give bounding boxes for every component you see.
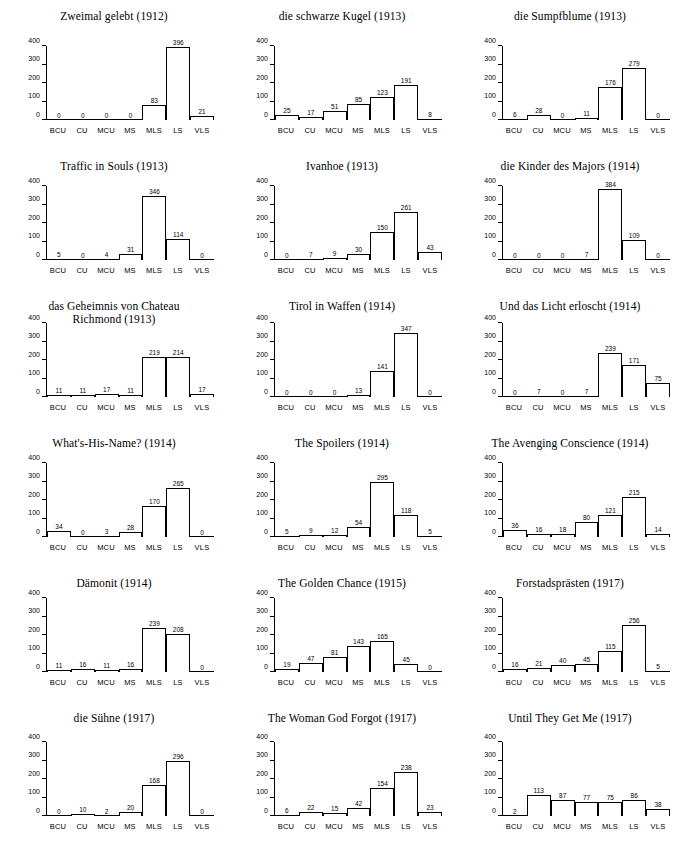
bar-value-label: 16	[71, 661, 95, 668]
y-axis-tick	[498, 741, 502, 742]
bar-cell: 0	[551, 323, 575, 397]
y-axis-tick	[498, 671, 502, 672]
bar-value-label: 0	[418, 664, 442, 671]
bar	[119, 532, 143, 537]
bar-cell: 16	[527, 463, 551, 537]
x-axis-labels: BCUCUMCUMSMLSLSVLS	[46, 818, 214, 838]
y-axis-tick	[498, 653, 502, 654]
panel-title: The Woman God Forgot (1917)	[228, 702, 456, 725]
bar-cell: 14	[646, 463, 670, 537]
chart-panel: The Avenging Conscience (1914)0100200300…	[456, 427, 684, 567]
bar-cell: 0	[503, 323, 527, 397]
bar-value-label: 51	[323, 103, 347, 110]
bar-value-label: 25	[275, 107, 299, 114]
x-axis-tick-label: BCU	[502, 822, 526, 831]
x-axis-labels: BCUCUMCUMSMLSLSVLS	[502, 674, 670, 694]
panel-title: Dämonit (1914)	[0, 567, 228, 590]
y-axis-tick-label: 0	[36, 387, 40, 394]
bar-value-label: 30	[347, 246, 371, 253]
y-axis-tick-label: 400	[256, 36, 268, 43]
bar-value-label: 11	[119, 387, 143, 394]
y-axis-tick-label: 300	[256, 607, 268, 614]
x-axis-tick-label: VLS	[190, 266, 214, 275]
bar-cell: 15	[323, 742, 347, 816]
plot-canvas: 010020030040021138777758638	[502, 742, 670, 816]
y-axis-tick-label: 200	[28, 350, 40, 357]
bar-cell: 21	[190, 46, 214, 120]
y-axis-tick	[498, 259, 502, 260]
x-axis-tick-label: MCU	[322, 822, 346, 831]
bar-cell: 239	[598, 323, 622, 397]
bar-cell: 265	[166, 463, 190, 537]
bar-value-label: 0	[47, 112, 71, 119]
y-axis-tick-label: 300	[28, 472, 40, 479]
y-axis-tick-label: 400	[256, 588, 268, 595]
bar-series: 194781143165450	[275, 598, 442, 672]
x-axis-tick-label: MS	[118, 678, 142, 687]
x-axis-tick-label: MCU	[322, 403, 346, 412]
y-axis-tick-label: 200	[484, 490, 496, 497]
bar-cell: 0	[646, 46, 670, 120]
bar-value-label: 0	[71, 112, 95, 119]
bar	[71, 259, 95, 260]
bar-value-label: 191	[394, 77, 418, 84]
y-axis-tick	[270, 341, 274, 342]
small-multiples-chart-grid: Zweimal gelebt (1912)0100200300400000083…	[0, 0, 684, 846]
y-axis-tick	[270, 653, 274, 654]
x-axis-tick-label: BCU	[46, 403, 70, 412]
x-axis-tick-label: LS	[166, 266, 190, 275]
plot-canvas: 0100200300400162140451152565	[502, 598, 670, 672]
bar	[275, 259, 299, 260]
bar	[598, 87, 622, 120]
x-axis-tick-label: CU	[526, 543, 550, 552]
bar	[166, 488, 190, 537]
y-axis-tick-label: 200	[484, 625, 496, 632]
bar	[323, 111, 347, 120]
bar-value-label: 23	[418, 804, 442, 811]
bar-value-label: 0	[275, 252, 299, 259]
bar-cell: 239	[142, 598, 166, 672]
bar-value-label: 81	[323, 649, 347, 656]
y-axis-tick	[42, 499, 46, 500]
bar-cell: 2	[95, 742, 119, 816]
bar	[142, 506, 166, 537]
x-axis-tick-label: CU	[298, 266, 322, 275]
bar-value-label: 75	[646, 375, 670, 382]
bar-value-label: 3	[95, 528, 119, 535]
bar-cell: 0	[551, 186, 575, 260]
bar-value-label: 16	[527, 526, 551, 533]
bar-series: 0102201682960	[47, 742, 214, 816]
plot-area: 0100200300400251751851231918BCUCUMCUMSML…	[228, 46, 456, 142]
bar-cell: 7	[575, 186, 599, 260]
x-axis-tick-label: MS	[574, 678, 598, 687]
y-axis-tick	[498, 518, 502, 519]
y-axis-tick-label: 100	[484, 232, 496, 239]
y-axis-tick	[270, 815, 274, 816]
x-axis-tick-label: LS	[166, 678, 190, 687]
y-axis-tick	[42, 378, 46, 379]
x-axis-tick-label: BCU	[502, 126, 526, 135]
bar-cell: 0	[275, 323, 299, 397]
bar-cell: 75	[598, 742, 622, 816]
x-axis-tick-label: LS	[166, 822, 190, 831]
y-axis-tick-label: 200	[28, 73, 40, 80]
bar-cell: 9	[323, 186, 347, 260]
bar-value-label: 0	[190, 252, 214, 259]
y-axis-tick	[42, 341, 46, 342]
y-axis-tick-label: 100	[484, 644, 496, 651]
bar	[323, 657, 347, 672]
x-axis-tick-label: VLS	[190, 403, 214, 412]
y-axis-tick	[42, 259, 46, 260]
bar-value-label: 215	[622, 489, 646, 496]
bar	[142, 357, 166, 398]
x-axis-tick-label: VLS	[418, 543, 442, 552]
x-axis-tick-label: MS	[118, 543, 142, 552]
x-axis-tick-label: MCU	[550, 126, 574, 135]
bar-value-label: 5	[47, 251, 71, 258]
x-axis-tick-label: MLS	[142, 403, 166, 412]
plot-canvas: 01002003004006280111762790	[502, 46, 670, 120]
y-axis-tick	[498, 778, 502, 779]
y-axis-tick	[42, 101, 46, 102]
y-axis-tick	[270, 741, 274, 742]
plot-area: 01002003004000102201682960BCUCUMCUMSMLSL…	[0, 742, 228, 838]
